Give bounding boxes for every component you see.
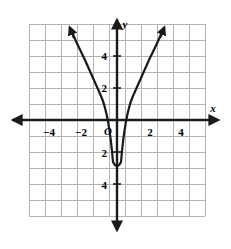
origin-label: O	[104, 125, 112, 137]
x-tick-label-neg4: −4	[43, 126, 55, 138]
y-tick-label-neg2: 2	[102, 147, 108, 159]
figure-background	[0, 0, 231, 249]
y-axis-label: y	[121, 18, 128, 30]
y-tick-label-pos4: 4	[102, 50, 108, 62]
y-tick-label-pos2: 2	[102, 82, 108, 94]
y-tick-label-neg4: 4	[102, 179, 108, 191]
x-tick-label-neg2: −2	[75, 126, 87, 138]
graph-screenshot: x y O −4 −2 2 4 4 2 2 4	[0, 0, 231, 249]
coordinate-plane-figure: x y O −4 −2 2 4 4 2 2 4	[0, 0, 231, 249]
x-axis-label: x	[209, 102, 216, 114]
x-tick-label-pos4: 4	[178, 126, 184, 138]
x-tick-label-pos2: 2	[147, 126, 153, 138]
